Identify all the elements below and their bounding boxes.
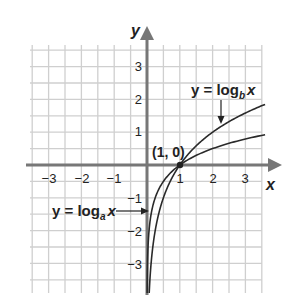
y-axis-label: y [130,22,141,39]
log-graph: x y −3 −2 −1 1 2 3 3 2 1 −1 −2 −3 (1, 0)… [0,0,296,308]
logb-label: y = logbx [191,81,256,101]
point-label: (1, 0) [152,144,185,160]
x-axis-arrow-icon [268,158,282,172]
logb-arrowhead-icon [218,116,225,124]
y-tick-label: 3 [135,59,142,74]
y-tick-label: −2 [127,224,142,239]
x-axis-label: x [265,176,276,193]
x-tick-label: −1 [107,171,122,186]
x-tick-label: 2 [209,171,216,186]
x-tick-label: −2 [75,171,90,186]
x-tick-label: 1 [176,171,183,186]
loga-label: y = logax [52,202,117,222]
x-tick-labels: −3 −2 −1 1 2 3 [42,171,249,186]
point-1-0 [177,162,183,168]
logb-annotation: y = logbx [191,81,256,124]
y-tick-label: 2 [135,92,142,107]
y-axis-arrow-icon [140,26,154,40]
x-tick-label: −3 [42,171,57,186]
y-tick-label: −3 [127,257,142,272]
x-tick-label: 3 [241,171,248,186]
y-tick-label: 1 [135,124,142,139]
y-tick-label: −1 [127,191,142,206]
